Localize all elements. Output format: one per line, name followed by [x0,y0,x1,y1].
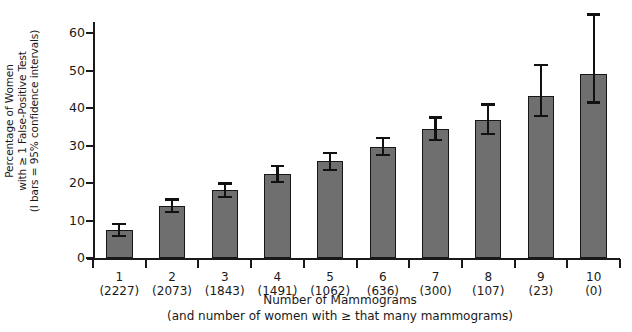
error-bar-line-10 [593,15,595,103]
error-bar-cap-lower-10 [587,101,601,103]
bar-2 [159,206,185,258]
x-label-number-2: 2 [146,270,199,284]
y-tick-40 [86,107,95,109]
y-axis-title-line1: Percentage of Women [3,0,16,247]
x-tick-boundary-7 [461,259,463,268]
error-bar-cap-upper-3 [218,182,232,184]
error-bar-cap-upper-10 [587,13,601,15]
bar-4 [264,174,290,258]
y-tick-label-10: 10 [55,213,85,228]
error-bar-cap-upper-7 [429,116,443,118]
error-bar-cap-upper-4 [271,165,285,167]
y-tick-30 [86,145,95,147]
error-bar-cap-lower-4 [271,181,285,183]
error-bar-cap-lower-9 [534,115,548,117]
y-tick-10 [86,220,95,222]
bar-3 [212,190,238,258]
x-tick-boundary-3 [250,259,252,268]
bar-6 [370,147,396,258]
x-tick-boundary-4 [303,259,305,268]
x-axis-title: Number of Mammograms (and number of wome… [60,292,620,324]
error-bar-cap-lower-2 [165,211,179,213]
error-bar-cap-lower-6 [376,154,390,156]
x-tick-boundary-8 [514,259,516,268]
error-bar-cap-upper-9 [534,64,548,66]
x-label-number-7: 7 [409,270,462,284]
error-bar-cap-lower-3 [218,196,232,198]
x-label-number-6: 6 [357,270,410,284]
y-tick-label-50: 50 [55,63,85,78]
x-tick-boundary-1 [145,259,147,268]
plot-area [93,22,620,258]
y-axis-title-line2: with ≥ 1 False-Positive Test [16,0,29,247]
bar-9 [528,96,554,258]
bar-5 [317,161,343,258]
y-tick-60 [86,32,95,34]
error-bar-line-5 [329,153,331,170]
x-tick-boundary-0 [92,259,94,268]
y-tick-label-20: 20 [55,175,85,190]
error-bar-cap-upper-5 [323,152,337,154]
x-label-number-3: 3 [198,270,251,284]
x-label-number-5: 5 [304,270,357,284]
error-bar-line-7 [434,118,436,140]
x-label-number-4: 4 [251,270,304,284]
x-tick-boundary-6 [408,259,410,268]
x-axis-title-line2: (and number of women with ≥ that many ma… [60,308,620,324]
error-bar-cap-lower-5 [323,169,337,171]
x-tick-boundary-9 [566,259,568,268]
error-bar-cap-upper-2 [165,198,179,200]
x-tick-boundary-2 [197,259,199,268]
y-tick-20 [86,182,95,184]
x-tick-boundary-5 [356,259,358,268]
y-tick-50 [86,70,95,72]
x-tick-boundary-10 [619,259,621,268]
x-axis-line [87,258,620,260]
bar-8 [475,120,501,258]
error-bar-line-6 [382,138,384,154]
y-tick-label-30: 30 [55,138,85,153]
y-tick-label-40: 40 [55,100,85,115]
error-bar-line-4 [276,166,278,182]
chart-figure: Percentage of Women with ≥ 1 False-Posit… [0,0,632,332]
error-bar-cap-lower-8 [481,133,495,135]
x-label-number-9: 9 [515,270,568,284]
x-label-number-8: 8 [462,270,515,284]
error-bar-cap-lower-7 [429,139,443,141]
y-axis-title-line3: (I bars = 95% confidence intervals) [28,0,41,247]
error-bar-cap-lower-1 [112,235,126,237]
error-bar-cap-upper-6 [376,137,390,139]
bar-7 [422,129,448,258]
error-bar-line-8 [487,104,489,134]
y-axis-line [93,22,95,260]
error-bar-cap-upper-1 [112,223,126,225]
error-bar-cap-upper-8 [481,103,495,105]
x-label-number-10: 10 [567,270,620,284]
y-tick-label-60: 60 [55,25,85,40]
x-axis-title-line1: Number of Mammograms [60,292,620,308]
y-axis-title: Percentage of Women with ≥ 1 False-Posit… [0,0,64,270]
error-bar-line-9 [540,65,542,116]
x-label-number-1: 1 [93,270,146,284]
y-tick-label-0: 0 [55,250,85,265]
